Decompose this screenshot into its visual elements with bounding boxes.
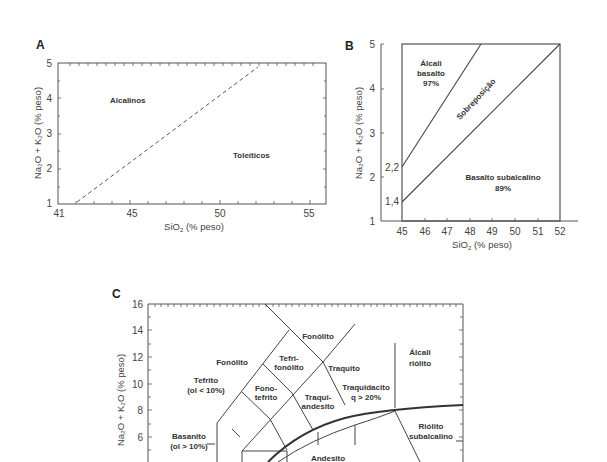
panel-b-ytick: 4 — [369, 83, 375, 94]
label-fonolito: Fonólito — [302, 332, 334, 341]
panel-b-ytick: 2 — [369, 172, 375, 183]
panel-c-ytick: 12 — [132, 352, 144, 363]
panel-c-ytick: 16 — [132, 299, 144, 310]
label-alcali-basalto-pct: 97% — [423, 79, 439, 88]
panel-b-ytick-22: 2,2 — [385, 162, 399, 173]
panel-b: B 5 4 3 2 1 2,2 1,4 45 46 47 48 49 50 51… — [345, 39, 578, 251]
panel-c-ytick: 6 — [137, 432, 143, 443]
panel-a-frame — [58, 63, 326, 204]
label-fonotefrito: Fono- — [255, 384, 278, 393]
panel-a-xtick: 55 — [303, 208, 315, 219]
label-basalto-subalcalino: Basalto subalcalino — [465, 173, 540, 182]
panel-b-xtick: 45 — [396, 226, 408, 237]
panel-a-ylabel: Na₂O + K₂O (% peso) — [32, 87, 43, 179]
label-traquiandesito: andesito — [302, 402, 335, 411]
panel-c-ytick: 14 — [132, 325, 144, 336]
panel-b-xlabel: SiO2 (% peso) — [452, 239, 512, 251]
panel-b-xtick: 48 — [464, 226, 476, 237]
panel-b-ylabel: Na₂O + K₂O (% peso) — [353, 87, 364, 179]
label-tefrito: Tefrito — [194, 376, 218, 385]
label-traquidacito: q > 20% — [351, 393, 381, 402]
panel-b-ytick: 5 — [369, 39, 375, 50]
panel-b-letter: B — [345, 39, 354, 53]
label-traquiandesito: Traqui- — [305, 393, 332, 402]
label-alcali-basalto: Álcali — [420, 59, 441, 68]
label-tefrifonolito: Tefri- — [279, 354, 299, 363]
panel-c: C — [112, 287, 463, 462]
panel-a-ticks — [58, 63, 326, 204]
panel-b-xtick: 50 — [509, 226, 521, 237]
panel-a-divider-line — [77, 67, 258, 202]
label-alcali-basalto: basalto — [417, 69, 445, 78]
panel-a-xtick: 45 — [126, 208, 138, 219]
panel-a-xlabel: SiO2 (% peso) — [164, 221, 224, 233]
label-basalto-subalcalino-pct: 89% — [495, 184, 511, 193]
panel-b-ytick-14: 1,4 — [385, 196, 399, 207]
panel-a-ytick: 1 — [46, 198, 52, 209]
panel-c-ylabel: Na₂O + K₂O (% peso) — [115, 354, 126, 446]
label-andesito: Andesito — [311, 454, 345, 462]
label-tefrito: (ol < 10%) — [187, 386, 225, 395]
panel-a-xtick: 41 — [53, 208, 65, 219]
panel-b-xtick: 47 — [441, 226, 453, 237]
label-riolito-subalcalino: subalcalino — [409, 432, 453, 441]
label-riolito-subalcalino: Riólito — [419, 422, 444, 431]
label-traquito: Traquito — [328, 364, 360, 373]
label-alcali-riolito: Álcali — [409, 348, 430, 357]
label-fonotefrito: tefrito — [255, 393, 278, 402]
label-alcalinos: Alcalinos — [110, 96, 146, 105]
label-fonolito: Fonólito — [216, 358, 248, 367]
figure: A 1 2 — [0, 0, 607, 462]
label-tefrifonolito: fonólito — [274, 363, 303, 372]
panel-b-xtick: 46 — [419, 226, 431, 237]
panel-b-ytick: 3 — [369, 128, 375, 139]
panel-c-ytick: 10 — [132, 379, 144, 390]
panel-c-letter: C — [112, 287, 121, 301]
panel-b-xtick: 49 — [486, 226, 498, 237]
panel-c-ytick: 8 — [137, 405, 143, 416]
label-traquidacito: Traquidacito — [342, 383, 390, 392]
panel-a-letter: A — [36, 38, 45, 52]
panel-a-ytick: 5 — [46, 58, 52, 69]
label-toleiticos: Toleíticos — [233, 151, 270, 160]
panel-a-ytick: 3 — [46, 128, 52, 139]
panel-a: A 1 2 — [32, 38, 326, 233]
panel-a-ytick: 2 — [46, 163, 52, 174]
label-basanito: Basanito — [172, 432, 206, 441]
label-alcali-riolito: riólito — [409, 359, 431, 368]
panel-b-xtick: 51 — [532, 226, 544, 237]
panel-b-ytick: 1 — [369, 216, 375, 227]
panel-a-xtick: 50 — [214, 208, 226, 219]
label-sobreposicao: Sobreposição — [455, 77, 498, 122]
panel-b-xtick: 52 — [554, 226, 566, 237]
label-basanito: (ol > 10%) — [170, 442, 208, 451]
panel-a-ytick: 4 — [46, 93, 52, 104]
panel-b-ticks — [381, 44, 538, 221]
